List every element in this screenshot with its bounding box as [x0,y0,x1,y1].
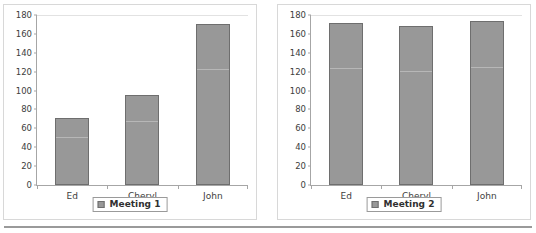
x-axis-tick-mark [381,185,382,189]
x-axis-tick-label: Ed [340,192,351,201]
legend-swatch-icon [98,201,105,208]
x-axis-tick-mark [521,185,522,189]
chart-panel-meeting-2: 020406080100120140160180 EdCherylJohn Me… [277,4,531,220]
x-axis-tick-mark [452,185,453,189]
bar-group-meeting-2: EdCherylJohn [311,15,522,185]
bar[interactable] [470,21,504,185]
y-axis-tick-label: 160 [290,30,306,39]
y-axis-tick-label: 40 [21,143,32,152]
plot-area-meeting-2: 020406080100120140160180 EdCherylJohn [310,15,522,186]
bar[interactable] [329,23,363,185]
bar[interactable] [196,24,230,186]
y-axis-tick-label: 60 [295,124,306,133]
x-axis-tick-mark [37,185,38,189]
y-axis-tick-label: 60 [21,124,32,133]
figure-canvas: 020406080100120140160180 EdCherylJohn Me… [0,0,536,233]
legend-swatch-icon [372,201,379,208]
x-axis-tick-mark [107,185,108,189]
x-axis-tick-label: John [477,192,497,201]
bar-slot: Ed [311,15,381,185]
bar[interactable] [55,118,89,185]
y-axis-tick-label: 80 [295,105,306,114]
x-axis-tick-mark [247,185,248,189]
bar-slot: John [178,15,248,185]
x-axis-tick-label: Ed [66,192,77,201]
y-axis-tick-label: 160 [16,30,32,39]
bar-slot: John [452,15,522,185]
bar[interactable] [399,26,433,185]
y-axis-tick-label: 80 [21,105,32,114]
x-axis-tick-mark [311,185,312,189]
legend-label: Meeting 2 [384,200,435,209]
y-axis-tick-label: 180 [290,11,306,20]
y-axis-tick-label: 20 [21,162,32,171]
y-axis-tick-label: 120 [290,67,306,76]
legend-meeting-1[interactable]: Meeting 1 [93,197,168,212]
legend-label: Meeting 1 [110,200,161,209]
y-axis-tick-label: 40 [295,143,306,152]
bar[interactable] [125,95,159,185]
bar-slot: Cheryl [381,15,451,185]
plot-area-meeting-1: 020406080100120140160180 EdCherylJohn [36,15,248,186]
legend-meeting-2[interactable]: Meeting 2 [367,197,442,212]
x-axis-tick-label: John [203,192,223,201]
y-axis-tick-label: 100 [16,86,32,95]
bar-slot: Ed [37,15,107,185]
footer-divider [4,226,532,228]
y-axis-tick-label: 140 [290,49,306,58]
y-axis-tick-label: 120 [16,67,32,76]
y-axis-tick-label: 100 [290,86,306,95]
y-axis-tick-label: 140 [16,49,32,58]
y-axis-tick-label: 20 [295,162,306,171]
chart-panel-meeting-1: 020406080100120140160180 EdCherylJohn Me… [3,4,257,220]
y-axis-tick-label: 0 [301,181,306,190]
x-axis-tick-mark [178,185,179,189]
y-axis-tick-label: 0 [27,181,32,190]
bar-slot: Cheryl [107,15,177,185]
y-axis-tick-label: 180 [16,11,32,20]
bar-group-meeting-1: EdCherylJohn [37,15,248,185]
